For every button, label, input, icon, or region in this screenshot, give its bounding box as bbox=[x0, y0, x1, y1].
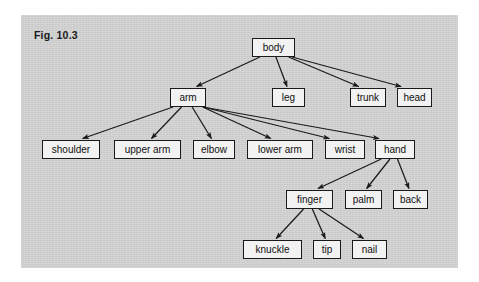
tree-node-nail[interactable]: nail bbox=[352, 240, 387, 259]
tree-node-back[interactable]: back bbox=[393, 190, 428, 209]
figure-panel: Fig. 10.3 bodyarmlegtrunkheadshoulderupp… bbox=[21, 15, 458, 268]
tree-node-label: upper arm bbox=[125, 145, 171, 155]
tree-node-trunk[interactable]: trunk bbox=[350, 88, 386, 107]
tree-node-arm[interactable]: arm bbox=[170, 88, 206, 107]
tree-edge-hand-to-finger bbox=[318, 159, 381, 189]
tree-edge-arm-to-hand bbox=[203, 107, 379, 139]
tree-edge-arm-to-lower_arm bbox=[203, 107, 271, 139]
tree-node-label: arm bbox=[179, 93, 196, 103]
tree-edge-body-to-arm bbox=[197, 57, 260, 87]
tree-node-finger[interactable]: finger bbox=[286, 190, 333, 209]
tree-node-label: knuckle bbox=[256, 245, 290, 255]
tree-node-label: leg bbox=[282, 93, 295, 103]
tree-edge-body-to-leg bbox=[276, 57, 287, 87]
tree-node-body[interactable]: body bbox=[252, 38, 295, 57]
tree-node-lower_arm[interactable]: lower arm bbox=[247, 140, 313, 159]
tree-node-label: head bbox=[403, 93, 425, 103]
tree-node-label: palm bbox=[353, 195, 375, 205]
tree-node-label: nail bbox=[362, 245, 378, 255]
tree-edge-hand-to-palm bbox=[367, 159, 390, 189]
tree-node-label: hand bbox=[384, 145, 406, 155]
tree-edge-arm-to-shoulder bbox=[83, 107, 173, 139]
tree-node-label: tip bbox=[322, 245, 333, 255]
tree-node-tip[interactable]: tip bbox=[313, 240, 341, 259]
tree-node-elbow[interactable]: elbow bbox=[193, 140, 235, 159]
tree-node-label: wrist bbox=[335, 145, 356, 155]
tree-node-label: elbow bbox=[201, 145, 227, 155]
tree-edge-arm-to-upper_arm bbox=[152, 107, 182, 139]
tree-node-label: finger bbox=[297, 195, 322, 205]
tree-node-shoulder[interactable]: shoulder bbox=[42, 140, 100, 159]
tree-node-label: lower arm bbox=[258, 145, 302, 155]
tree-node-upper_arm[interactable]: upper arm bbox=[114, 140, 181, 159]
tree-node-label: body bbox=[263, 43, 285, 53]
tree-edge-arm-to-wrist bbox=[203, 107, 329, 139]
tree-node-label: back bbox=[400, 195, 421, 205]
tree-node-leg[interactable]: leg bbox=[272, 88, 305, 107]
tree-node-hand[interactable]: hand bbox=[375, 140, 415, 159]
tree-node-palm[interactable]: palm bbox=[345, 190, 382, 209]
tree-node-knuckle[interactable]: knuckle bbox=[243, 240, 302, 259]
tree-edge-finger-to-knuckle bbox=[276, 209, 303, 239]
tree-node-label: trunk bbox=[357, 93, 379, 103]
tree-edge-hand-to-back bbox=[397, 159, 408, 189]
tree-node-head[interactable]: head bbox=[397, 88, 432, 107]
tree-node-label: shoulder bbox=[52, 145, 90, 155]
tree-edge-finger-to-nail bbox=[319, 209, 363, 239]
tree-edge-arm-to-elbow bbox=[192, 107, 211, 139]
figure-root: Fig. 10.3 bodyarmlegtrunkheadshoulderupp… bbox=[0, 0, 479, 282]
tree-edge-finger-to-tip bbox=[312, 209, 325, 239]
tree-node-wrist[interactable]: wrist bbox=[325, 140, 365, 159]
